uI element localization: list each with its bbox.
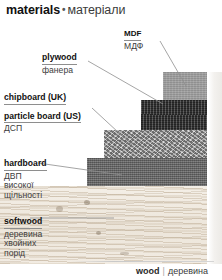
label-chipboard: chipboard (UK) particle board (US) ДСП: [4, 86, 81, 134]
label-plywood-uk: фанера: [42, 66, 77, 76]
wood-knot-icon: [84, 200, 90, 205]
panel-hardboard: [87, 158, 207, 186]
panel-plywood: [141, 100, 207, 130]
caption-en: wood: [136, 266, 160, 276]
label-plywood: plywood фанера: [42, 46, 77, 75]
label-mdf-en: MDF: [124, 30, 141, 41]
label-chipboard-us-variant: particle board (US): [4, 112, 81, 124]
label-chipboard-uk: ДСП: [4, 124, 81, 134]
caption-divider: |: [160, 266, 168, 276]
label-softwood-en: softwood: [4, 217, 42, 229]
wood-knot-icon: [120, 252, 129, 255]
figure-caption: wood|деревина: [136, 266, 208, 276]
wood-knot-icon: [56, 206, 63, 212]
label-mdf: MDF МДФ: [124, 22, 143, 52]
label-softwood-uk-line3: порід: [4, 249, 42, 259]
panel-mdf: [163, 72, 207, 100]
label-plywood-en: plywood: [42, 53, 77, 65]
materials-illustration: materials•матеріали MDF МДФ plywood: [0, 0, 222, 280]
panel-chipboard: [104, 130, 207, 158]
label-hardboard-en: hardboard: [4, 159, 47, 171]
label-mdf-uk: МДФ: [124, 42, 143, 52]
label-chipboard-uk-variant: chipboard (UK): [4, 93, 66, 105]
label-hardboard-uk: ДВП високої щільності: [4, 172, 47, 201]
label-hardboard-uk-line3: щільності: [4, 191, 47, 201]
label-softwood: softwood деревина хвойних порід: [4, 210, 42, 259]
caption-divider-rule: [70, 261, 214, 262]
panel-edge-strip: [209, 72, 222, 264]
label-softwood-uk: деревина хвойних порід: [4, 230, 42, 259]
caption-uk: деревина: [168, 266, 208, 276]
wood-knot-icon: [96, 231, 101, 235]
label-hardboard: hardboard ДВП високої щільності: [4, 152, 47, 201]
